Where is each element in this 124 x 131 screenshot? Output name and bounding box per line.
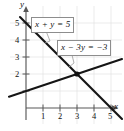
y-tick-label-4: 4 (15, 35, 19, 45)
y-tick-label-5: 5 (15, 18, 19, 28)
x-tick-label-3: 3 (75, 111, 79, 121)
y-tick-label-2: 2 (15, 69, 19, 79)
y-axis-arrowhead (23, 6, 29, 12)
x-tick-label-1: 1 (41, 111, 45, 121)
y-tick-label-3: 3 (15, 52, 19, 62)
equation-label-line1: x + y = 5 (31, 17, 74, 33)
x-tick-label-5: 5 (108, 111, 112, 121)
intersection-point-marker (74, 71, 79, 76)
x-tick-label-2: 2 (58, 111, 62, 121)
x-tick-label-4: 4 (92, 111, 96, 121)
y-axis-label: y (20, 0, 24, 9)
x-axis-label: x (114, 101, 118, 111)
equation-label-line2: x − 3y = −3 (57, 40, 111, 56)
graph-figure: x + y = 5 x − 3y = −3 y x 1 2 3 4 5 2 3 … (0, 0, 124, 131)
